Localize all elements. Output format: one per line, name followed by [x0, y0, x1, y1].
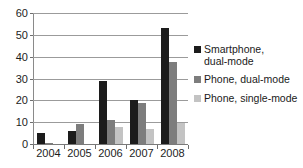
plot-area: 0102030405060	[33, 13, 188, 145]
bar	[177, 123, 185, 144]
bar-group	[97, 13, 125, 144]
bar	[169, 62, 177, 144]
y-tick-mark	[30, 79, 33, 80]
x-tick-label: 2007	[126, 148, 157, 159]
legend-swatch-icon	[194, 95, 201, 102]
bar	[68, 131, 76, 144]
legend-swatch-icon	[194, 76, 201, 83]
y-tick-label: 20	[16, 95, 28, 106]
y-tick-label: 60	[16, 8, 28, 19]
bar-chart: 0102030405060 20042005200620072008 Smart…	[0, 0, 303, 168]
bar	[130, 100, 138, 144]
y-tick-label: 0	[22, 139, 28, 150]
legend-item[interactable]: Smartphone, dual-mode	[194, 44, 302, 67]
bar	[107, 120, 115, 144]
x-tick-label: 2004	[33, 148, 64, 159]
chart-legend: Smartphone, dual-modePhone, dual-modePho…	[194, 44, 302, 111]
y-tick-label: 50	[16, 29, 28, 40]
legend-swatch-icon	[194, 46, 201, 53]
bar-group	[159, 13, 187, 144]
y-tick-label: 40	[16, 51, 28, 62]
bar	[45, 143, 53, 144]
y-tick-label: 30	[16, 73, 28, 84]
bar-group	[66, 13, 94, 144]
bar	[161, 28, 169, 144]
x-tick-label: 2008	[157, 148, 188, 159]
bar	[115, 127, 123, 144]
bar-group	[128, 13, 156, 144]
bar	[138, 103, 146, 144]
legend-label: Phone, dual-mode	[204, 74, 290, 86]
y-tick-mark	[30, 57, 33, 58]
y-tick-mark	[30, 100, 33, 101]
y-tick-mark	[30, 35, 33, 36]
y-tick-mark	[30, 122, 33, 123]
bar	[76, 124, 84, 144]
bar-group	[35, 13, 63, 144]
legend-label: Phone, single-mode	[204, 93, 297, 105]
x-axis-line	[33, 144, 188, 145]
bar	[37, 133, 45, 144]
x-tick-mark	[188, 145, 189, 149]
legend-label: Smartphone, dual-mode	[204, 44, 264, 67]
x-tick-label: 2006	[95, 148, 126, 159]
legend-item[interactable]: Phone, single-mode	[194, 93, 302, 105]
bar	[99, 81, 107, 144]
bar	[146, 129, 154, 144]
y-tick-label: 10	[16, 117, 28, 128]
x-tick-label: 2005	[64, 148, 95, 159]
y-tick-mark	[30, 13, 33, 14]
legend-item[interactable]: Phone, dual-mode	[194, 74, 302, 86]
